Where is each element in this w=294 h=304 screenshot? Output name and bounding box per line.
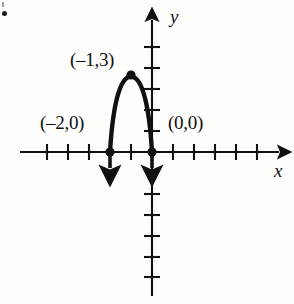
origin-coordinate-label: (0,0) bbox=[168, 113, 203, 132]
point-vertex bbox=[126, 70, 135, 79]
x-axis-label: x bbox=[274, 161, 282, 180]
point-left-root bbox=[105, 147, 114, 156]
point-origin bbox=[147, 147, 156, 156]
coordinate-plane bbox=[0, 0, 294, 304]
y-axis-label: y bbox=[170, 7, 178, 26]
left-root-coordinate-label: (–2,0) bbox=[40, 113, 84, 132]
vertex-coordinate-label: (–1,3) bbox=[70, 50, 114, 69]
graph-figure: (–1,3) (–2,0) (0,0) x y bbox=[0, 0, 294, 304]
